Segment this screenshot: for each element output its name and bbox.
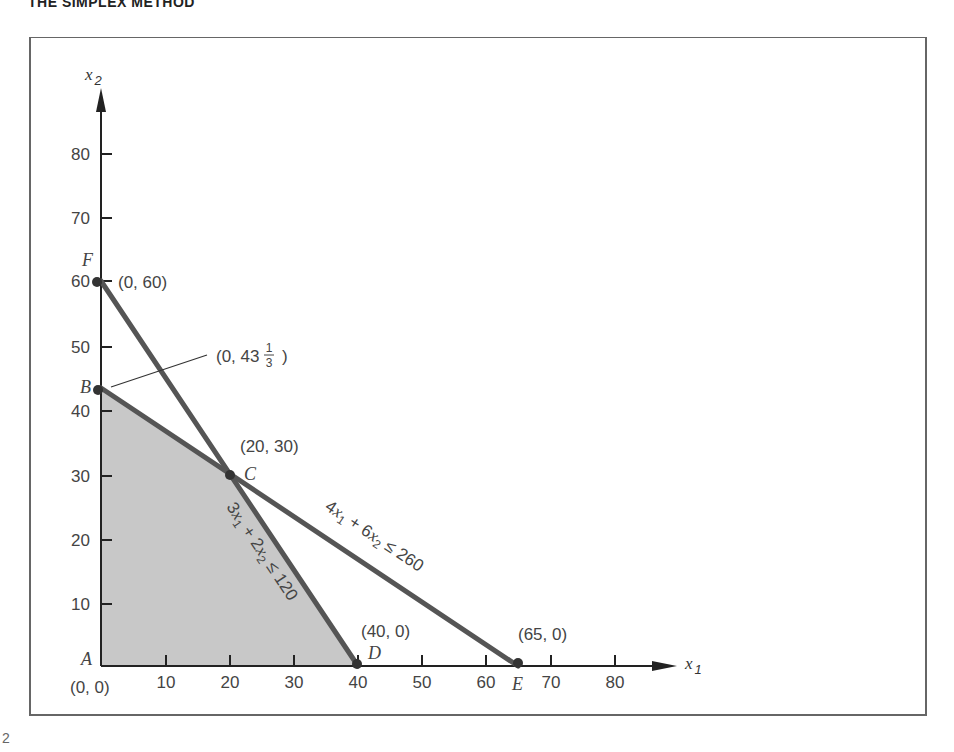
point-label-A: A	[80, 649, 93, 669]
point-label-F: F	[81, 250, 94, 270]
x-axis-label: x1	[684, 654, 702, 677]
svg-text:10: 10	[71, 595, 90, 614]
coord-label-C: (20, 30)	[240, 437, 299, 456]
svg-text:10: 10	[157, 673, 176, 692]
svg-text:60: 60	[71, 272, 90, 291]
coord-label-F: (0, 60)	[118, 273, 167, 292]
coord-label-B: (0, 43	[216, 347, 259, 366]
svg-text:80: 80	[71, 145, 90, 164]
svg-text:30: 30	[71, 467, 90, 486]
point-D	[352, 659, 362, 669]
point-label-C: C	[244, 464, 257, 484]
y-axis-arrow-icon	[96, 88, 106, 112]
svg-text:40: 40	[349, 673, 368, 692]
point-B	[93, 385, 103, 395]
coord-label-B-fraction: 1 3 )	[264, 341, 288, 370]
svg-text:3: 3	[266, 356, 273, 370]
point-label-E: E	[511, 674, 523, 694]
constraint-label-2: 4x1 + 6x2 ≤ 260	[320, 497, 427, 579]
svg-text:40: 40	[71, 402, 90, 421]
svg-text:50: 50	[71, 338, 90, 357]
svg-text:50: 50	[413, 673, 432, 692]
point-C	[225, 470, 235, 480]
svg-text:70: 70	[542, 673, 561, 692]
coord-label-E: (65, 0)	[518, 625, 567, 644]
leader-line-B	[111, 355, 207, 387]
coord-label-D: (40, 0)	[361, 622, 410, 641]
x-axis-arrow-icon	[652, 661, 677, 671]
x-tick-labels: 10 20 30 40 50 60 70 80	[157, 673, 625, 692]
svg-text:30: 30	[285, 673, 304, 692]
svg-text:1: 1	[266, 341, 273, 355]
y-axis-label: x2	[84, 65, 103, 88]
svg-text:80: 80	[606, 673, 625, 692]
point-E	[513, 658, 523, 668]
svg-text:70: 70	[71, 209, 90, 228]
svg-text:20: 20	[221, 673, 240, 692]
svg-text:): )	[282, 347, 288, 366]
point-label-B: B	[80, 377, 91, 397]
svg-text:60: 60	[477, 673, 496, 692]
lp-feasible-region-chart: 10 20 30 40 50 60 70 80 10 20 30 40 50 6…	[0, 0, 954, 752]
point-F	[92, 277, 102, 287]
point-label-D: D	[367, 643, 381, 663]
svg-text:20: 20	[71, 531, 90, 550]
feasible-region	[101, 388, 358, 666]
coord-label-A: (0, 0)	[70, 678, 110, 697]
